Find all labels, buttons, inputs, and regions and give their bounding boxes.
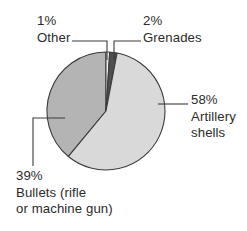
pie-label-bullets-percent: 39% (16, 168, 113, 185)
pie-label-artillery-percent: 58% (191, 92, 236, 109)
pie-label-artillery-name-line1: Artillery (191, 109, 236, 126)
pie-label-grenades: 2% Grenades (143, 13, 202, 46)
pie-label-artillery: 58% Artillery shells (191, 92, 236, 142)
pie-label-other: 1% Other (37, 13, 70, 46)
pie-chart-figure: 1% Other 2% Grenades 58% Artillery shell… (0, 0, 247, 231)
pie-label-grenades-name: Grenades (143, 30, 202, 47)
pie-label-bullets: 39% Bullets (rifle or machine gun) (16, 168, 113, 218)
pie-label-bullets-name-line1: Bullets (rifle (16, 185, 113, 202)
pie-label-grenades-percent: 2% (143, 13, 202, 30)
pie-label-other-percent: 1% (37, 13, 70, 30)
pie-label-bullets-name-line2: or machine gun) (16, 201, 113, 218)
pie-label-artillery-name-line2: shells (191, 125, 236, 142)
pie-label-other-name: Other (37, 30, 70, 47)
